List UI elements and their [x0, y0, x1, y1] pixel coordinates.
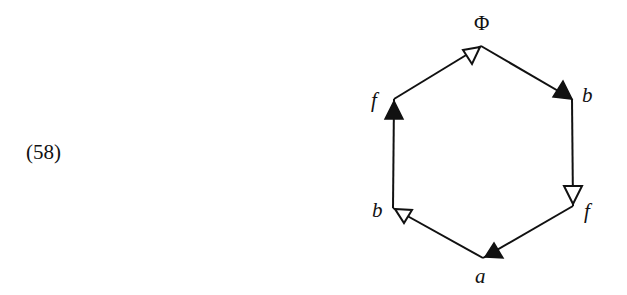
label-bottom-a: a [475, 264, 486, 288]
hexagon-diagram: Φ b f a b f [0, 0, 627, 295]
open-arrow-icon [564, 186, 582, 204]
label-upper-left-f: f [371, 88, 380, 112]
open-arrow-icon [463, 47, 480, 64]
filled-arrow-icon [385, 101, 403, 119]
label-upper-right-b: b [582, 83, 593, 107]
filled-arrow-icon [485, 243, 503, 258]
label-top-phi: Φ [474, 11, 489, 35]
figure-page: (58) [0, 0, 627, 295]
hexagon-edges [393, 46, 573, 258]
open-arrow-icon [395, 209, 412, 223]
label-lower-right-f: f [584, 199, 593, 223]
label-lower-left-b: b [372, 198, 383, 222]
